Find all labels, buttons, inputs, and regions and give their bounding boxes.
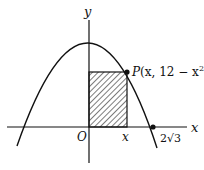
parabola-rectangle-diagram: y x O x 2√3 P(x, 12 − x2): [0, 0, 204, 170]
y-axis-label: y: [83, 4, 92, 19]
shaded-rectangle: [89, 72, 127, 127]
parabola-curve: [17, 43, 157, 148]
x-marker-label: x: [122, 130, 129, 144]
point-p-dot: [124, 69, 129, 74]
intercept-label: 2√3: [160, 132, 181, 145]
x-axis-label: x: [191, 120, 199, 135]
origin-label: O: [77, 130, 87, 144]
diagram-canvas: y x O x 2√3 P(x, 12 − x2): [0, 0, 204, 170]
point-p-label: P(x, 12 − x2): [131, 64, 204, 79]
intercept-dot: [150, 124, 155, 129]
